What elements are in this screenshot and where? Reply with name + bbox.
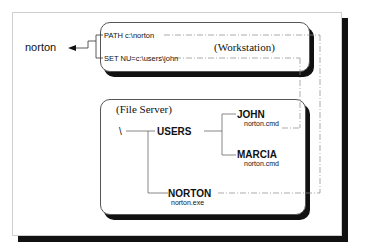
norton-command-label: norton	[25, 41, 56, 53]
marcia-file: norton.cmd	[244, 160, 279, 167]
file-server-title: (File Server)	[116, 103, 172, 115]
set-line: SET NU=c:\users\john	[104, 54, 178, 63]
john-dir: JOHN	[237, 109, 265, 120]
users-dir: USERS	[157, 126, 191, 137]
john-file: norton.cmd	[244, 120, 279, 127]
marcia-dir: MARCIA	[237, 149, 277, 160]
norton-file: norton.exe	[171, 199, 204, 206]
arrow-left-icon	[68, 45, 76, 51]
norton-dir: NORTON	[168, 188, 211, 199]
root-dir: \	[119, 126, 122, 137]
path-line: PATH c:\norton	[104, 31, 154, 40]
workstation-title: (Workstation)	[214, 41, 275, 53]
